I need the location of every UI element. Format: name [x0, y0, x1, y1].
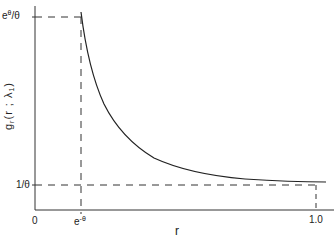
- y-axis-close: ): [2, 82, 14, 87]
- curve-g-r: [81, 12, 326, 182]
- x-tick-label-one: 1.0: [309, 214, 323, 225]
- y-tick-label-top: eθ/θ: [2, 9, 20, 21]
- y-top-rest: /θ: [11, 10, 19, 21]
- y-tick-label-bottom: 1/θ: [16, 179, 30, 190]
- y-axis-title: gr(r ; λ1): [2, 82, 15, 130]
- x-mid-sup: -θ: [80, 215, 86, 222]
- x-tick-label-e-theta: e-θ: [74, 215, 86, 227]
- chart-canvas: [0, 0, 334, 240]
- x-axis-title: r: [175, 224, 179, 238]
- y-axis-sub-1: 1: [8, 87, 15, 92]
- y-axis-sub-r: r: [8, 120, 15, 123]
- x-tick-label-origin: 0: [32, 215, 38, 226]
- y-axis-g: g: [2, 123, 14, 130]
- y-axis-args: (r ; λ: [2, 92, 14, 120]
